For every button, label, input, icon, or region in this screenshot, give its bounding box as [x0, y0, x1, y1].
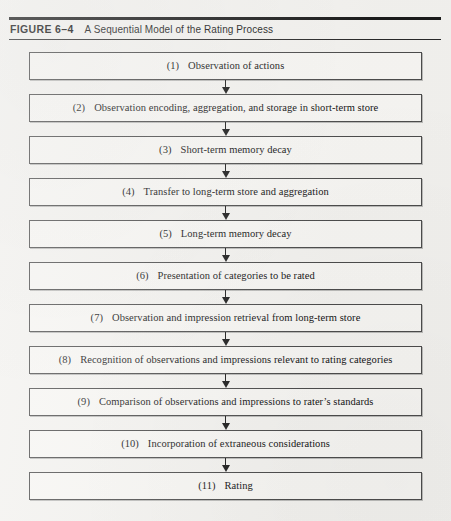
- flow-step-text: (9)Comparison of observations and impres…: [78, 397, 374, 408]
- figure-page: FIGURE 6–4 A Sequential Model of the Rat…: [0, 0, 451, 521]
- flow-step: (8)Recognition of observations and impre…: [29, 346, 422, 374]
- flow-step-box: (11)Rating: [29, 472, 422, 500]
- flow-arrow: [29, 248, 422, 262]
- flow-step-label: Observation and impression retrieval fro…: [112, 312, 360, 323]
- flow-step-box: (9)Comparison of observations and impres…: [29, 388, 422, 416]
- flow-step-text: (1)Observation of actions: [167, 61, 285, 72]
- arrow-head-icon: [222, 465, 230, 472]
- flow-step-box: (1)Observation of actions: [29, 52, 422, 80]
- flow-arrow: [29, 416, 422, 430]
- flow-step-number: (4): [122, 186, 134, 197]
- flow-arrow: [29, 374, 422, 388]
- flow-step-label: Recognition of observations and impressi…: [80, 354, 392, 365]
- flow-step-label: Comparison of observations and impressio…: [99, 396, 373, 407]
- flow-step-label: Observation encoding, aggregation, and s…: [94, 102, 378, 113]
- flow-arrow: [29, 80, 422, 94]
- flow-step-text: (6)Presentation of categories to be rate…: [136, 271, 315, 282]
- flow-step-text: (8)Recognition of observations and impre…: [59, 355, 393, 366]
- flow-step-text: (2)Observation encoding, aggregation, an…: [73, 103, 379, 114]
- flow-step-number: (11): [198, 480, 215, 491]
- flow-step-number: (8): [59, 354, 71, 365]
- flow-step-number: (1): [167, 60, 179, 71]
- flow-step-box: (5)Long-term memory decay: [29, 220, 422, 248]
- arrow-head-icon: [222, 423, 230, 430]
- arrow-head-icon: [222, 129, 230, 136]
- arrow-head-icon: [222, 171, 230, 178]
- figure-caption: FIGURE 6–4 A Sequential Model of the Rat…: [9, 20, 441, 39]
- flow-step-label: Rating: [225, 480, 253, 491]
- flow-step-box: (4)Transfer to long-term store and aggre…: [29, 178, 422, 206]
- flow-step-label: Presentation of categories to be rated: [158, 270, 315, 281]
- flow-step-box: (2)Observation encoding, aggregation, an…: [29, 94, 422, 122]
- flow-step-text: (11)Rating: [198, 481, 253, 492]
- flow-step: (4)Transfer to long-term store and aggre…: [29, 178, 422, 206]
- header-rule-bottom: [9, 39, 441, 40]
- flow-step: (7)Observation and impression retrieval …: [29, 304, 422, 332]
- flow-arrow: [29, 164, 422, 178]
- flow-arrow: [29, 206, 422, 220]
- arrow-head-icon: [222, 87, 230, 94]
- flow-arrow: [29, 290, 422, 304]
- flow-step: (1)Observation of actions: [29, 52, 422, 80]
- arrow-head-icon: [222, 381, 230, 388]
- flow-step-number: (2): [73, 102, 85, 113]
- flow-step: (9)Comparison of observations and impres…: [29, 388, 422, 416]
- page-title: A Sequential Model of the Rating Process: [85, 24, 274, 35]
- flow-step-box: (7)Observation and impression retrieval …: [29, 304, 422, 332]
- flow-arrow: [29, 458, 422, 472]
- flow-step-text: (4)Transfer to long-term store and aggre…: [122, 187, 329, 198]
- flow-step-number: (9): [78, 396, 90, 407]
- flow-step: (6)Presentation of categories to be rate…: [29, 262, 422, 290]
- flow-step-label: Short-term memory decay: [181, 144, 292, 155]
- flow-step-box: (10)Incorporation of extraneous consider…: [29, 430, 422, 458]
- flow-arrow: [29, 332, 422, 346]
- flow-step: (5)Long-term memory decay: [29, 220, 422, 248]
- flow-step-box: (8)Recognition of observations and impre…: [29, 346, 422, 374]
- flow-step-label: Observation of actions: [188, 60, 284, 71]
- arrow-head-icon: [222, 255, 230, 262]
- flow-step-number: (7): [91, 312, 103, 323]
- arrow-head-icon: [222, 297, 230, 304]
- flow-arrow: [29, 122, 422, 136]
- flowchart: (1)Observation of actions(2)Observation …: [29, 52, 422, 500]
- flow-step-box: (6)Presentation of categories to be rate…: [29, 262, 422, 290]
- flow-step: (3)Short-term memory decay: [29, 136, 422, 164]
- figure-label: FIGURE 6–4: [10, 23, 74, 35]
- flow-step-label: Long-term memory decay: [181, 228, 292, 239]
- flow-step-text: (3)Short-term memory decay: [159, 145, 292, 156]
- flow-step: (11)Rating: [29, 472, 422, 500]
- flow-step: (10)Incorporation of extraneous consider…: [29, 430, 422, 458]
- flow-step-number: (3): [159, 144, 171, 155]
- flow-step-number: (6): [136, 270, 148, 281]
- flow-step-number: (10): [121, 438, 139, 449]
- flow-step-text: (7)Observation and impression retrieval …: [91, 313, 361, 324]
- flow-step-label: Incorporation of extraneous consideratio…: [148, 438, 330, 449]
- figure-header: FIGURE 6–4 A Sequential Model of the Rat…: [9, 17, 441, 40]
- flow-step-number: (5): [159, 228, 171, 239]
- flow-step-text: (10)Incorporation of extraneous consider…: [121, 439, 330, 450]
- flow-step-box: (3)Short-term memory decay: [29, 136, 422, 164]
- flow-step-text: (5)Long-term memory decay: [159, 229, 291, 240]
- arrow-head-icon: [222, 339, 230, 346]
- flow-step-label: Transfer to long-term store and aggregat…: [144, 186, 329, 197]
- flow-step: (2)Observation encoding, aggregation, an…: [29, 94, 422, 122]
- arrow-head-icon: [222, 213, 230, 220]
